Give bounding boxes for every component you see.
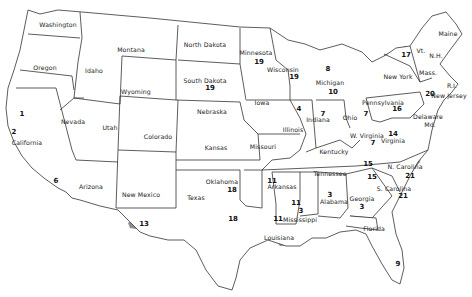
region-number: 18 <box>227 187 237 194</box>
state-label-arkansas: Arkansas <box>267 184 296 190</box>
state-label-north-dakota: North Dakota <box>184 42 226 48</box>
region-number: 6 <box>54 178 59 185</box>
state-label-mass: Mass. <box>419 70 437 76</box>
region-number: 8 <box>326 66 331 73</box>
state-label-n-h: N.H. <box>429 53 443 59</box>
region-number: 3 <box>299 208 304 215</box>
state-label-new-york: New York <box>383 74 412 80</box>
region-number: 18 <box>228 216 238 223</box>
region-number: 7 <box>321 111 326 118</box>
state-label-alabama: Alabama <box>320 199 348 205</box>
region-number: 15 <box>367 174 377 181</box>
state-label-montana: Montana <box>117 47 145 53</box>
region-number: 11 <box>267 178 277 185</box>
us-map <box>0 0 472 297</box>
state-label-utah: Utah <box>102 125 117 131</box>
state-label-iowa: Iowa <box>255 100 270 106</box>
state-label-delaware: Delaware <box>413 114 443 120</box>
state-label-r-i: R.I. <box>447 83 457 89</box>
region-number: 10 <box>328 89 338 96</box>
region-number: 4 <box>297 106 302 113</box>
region-number: 1 <box>20 111 25 118</box>
region-number: 16 <box>392 106 402 113</box>
state-label-arizona: Arizona <box>79 184 103 190</box>
state-label-colorado: Colorado <box>144 134 172 140</box>
state-label-texas: Texas <box>187 195 205 201</box>
region-number: 20 <box>425 91 435 98</box>
state-label-oregon: Oregon <box>33 65 56 71</box>
state-label-tennessee: Tennessee <box>313 171 346 177</box>
state-label-kentucky: Kentucky <box>319 149 348 155</box>
state-label-virginia: Virginia <box>381 138 405 144</box>
state-label-mississippi: Mississippi <box>283 217 317 223</box>
state-label-kansas: Kansas <box>205 145 228 151</box>
state-label-n-carolina: N. Carolina <box>387 164 422 170</box>
state-label-michigan: Michigan <box>316 80 345 86</box>
region-number: 2 <box>12 129 17 136</box>
region-number: 19 <box>289 74 299 81</box>
region-number: 19 <box>205 85 215 92</box>
state-label-minnesota: Minnesota <box>240 50 273 56</box>
state-label-washington: Washington <box>39 22 76 28</box>
state-label-oklahoma: Oklahoma <box>206 179 238 185</box>
state-label-california: California <box>12 140 42 146</box>
region-number: 21 <box>398 193 408 200</box>
state-label-md: Md. <box>424 122 436 128</box>
region-number: 17 <box>401 52 411 59</box>
state-label-new-jersey: New Jersey <box>431 93 466 99</box>
state-label-nevada: Nevada <box>61 119 85 125</box>
region-number: 3 <box>360 204 365 211</box>
region-number: 21 <box>405 173 415 180</box>
state-label-louisiana: Louisiana <box>264 235 294 241</box>
region-number: 11 <box>273 216 283 223</box>
region-number: 3 <box>328 192 333 199</box>
state-label-florida: Florida <box>363 226 385 232</box>
state-label-missouri: Missouri <box>250 144 276 150</box>
region-number: 19 <box>254 59 264 66</box>
state-label-indiana: Indiana <box>306 117 330 123</box>
region-number: 7 <box>371 140 376 147</box>
state-borders <box>6 10 462 290</box>
state-label-new-mexico: New Mexico <box>122 192 160 198</box>
state-label-illinois: Illinois <box>283 127 303 133</box>
region-number: 13 <box>139 221 149 228</box>
state-label-w-virginia: W. Virginia <box>350 133 384 139</box>
region-number: 7 <box>364 111 369 118</box>
region-number: 14 <box>388 131 398 138</box>
region-number: 11 <box>291 200 301 207</box>
state-label-idaho: Idaho <box>85 68 103 74</box>
state-label-wyoming: Wyoming <box>121 89 151 95</box>
state-label-vt: Vt. <box>417 48 426 54</box>
region-number: 15 <box>363 161 373 168</box>
region-number: 9 <box>396 261 401 268</box>
state-label-nebraska: Nebraska <box>197 109 227 115</box>
state-label-ohio: Ohio <box>343 115 358 121</box>
state-label-georgia: Georgia <box>350 196 375 202</box>
state-label-maine: Maine <box>438 31 457 37</box>
